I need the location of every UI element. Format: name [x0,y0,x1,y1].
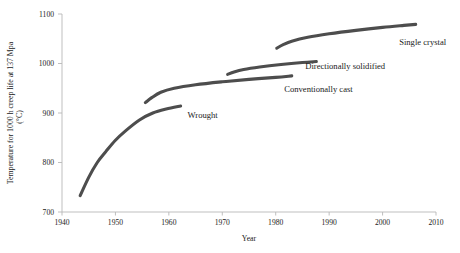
y-tick-label: 700 [43,208,55,217]
x-tick-label: 1940 [54,218,69,227]
x-tick-label: 2010 [428,218,443,227]
x-tick-label: 1960 [161,218,176,227]
series-label-single-crystal: Single crystal [399,37,447,47]
creep-life-line-chart: 70080090010001100 1940195019601970198019… [0,0,460,253]
series-label-directionally-solidified: Directionally solidified [305,61,386,71]
x-tick-label: 1950 [108,218,123,227]
series-line-directionally-solidified [228,62,317,75]
chart-container: 70080090010001100 1940195019601970198019… [0,0,460,253]
series-line-conventionally-cast [145,76,291,103]
series-label-conventionally-cast: Conventionally cast [284,84,353,94]
y-axis-title: Temperature for 1000 h creep life at 137… [6,41,15,184]
y-axis: 70080090010001100 [39,10,62,217]
x-axis-ticks [62,212,436,216]
x-tick-label: 1970 [215,218,230,227]
y-axis-unit-label: (°C) [15,110,24,124]
y-axis-tick-labels: 70080090010001100 [39,10,54,217]
series-line-wrought [80,106,180,196]
series-layer [80,24,416,195]
y-tick-label: 900 [43,109,55,118]
x-axis-tick-labels: 19401950196019701980199020002010 [54,218,443,227]
x-tick-label: 2000 [375,218,390,227]
x-axis: 19401950196019701980199020002010 [54,212,443,227]
x-tick-label: 1990 [322,218,337,227]
y-tick-label: 800 [43,158,55,167]
series-annotation-layer: Wrought Conventionally cast Directionall… [188,37,447,120]
x-tick-label: 1980 [268,218,283,227]
y-tick-label: 1000 [39,59,54,68]
series-line-single-crystal [277,24,416,48]
y-tick-label: 1100 [39,10,54,19]
y-axis-ticks [58,14,62,212]
series-label-wrought: Wrought [188,110,219,120]
x-axis-title: Year [242,234,257,243]
